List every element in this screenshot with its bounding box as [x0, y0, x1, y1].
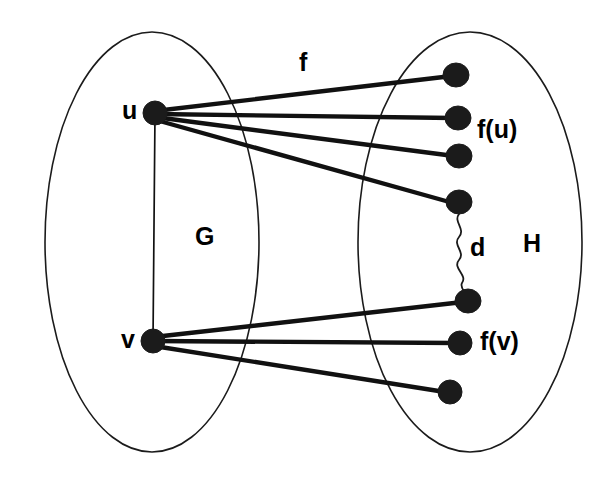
label-distance-d: d: [470, 235, 485, 260]
set-outline-g: [45, 32, 259, 452]
label-vertex-v: v: [121, 327, 135, 352]
edge-u-h3: [155, 117, 454, 156]
edge-u-h1: [155, 76, 452, 111]
label-set-g: G: [195, 224, 214, 249]
vertex-h5[interactable]: [455, 289, 481, 313]
edge-v-h7: [154, 346, 445, 392]
vertex-v[interactable]: [141, 329, 165, 353]
vertex-h7[interactable]: [438, 380, 462, 404]
vertex-u[interactable]: [143, 101, 167, 125]
vertex-h3[interactable]: [446, 144, 472, 168]
vertex-h2[interactable]: [445, 106, 471, 130]
edge-v-h5: [154, 302, 463, 337]
label-image-of-u: f(u): [477, 117, 517, 142]
label-vertex-u: u: [122, 98, 137, 123]
figure-canvas: u v G H f d f(u) f(v): [0, 0, 604, 486]
label-set-h: H: [523, 231, 541, 256]
edge-u-h4: [156, 120, 453, 203]
edge-u-h2: [155, 114, 453, 118]
vertex-h4[interactable]: [446, 190, 472, 214]
edge-u-v: [153, 113, 155, 341]
edge-v-h6: [154, 341, 455, 343]
label-image-of-v: f(v): [480, 329, 519, 354]
vertex-h1[interactable]: [443, 63, 469, 87]
edge-distance-d: [457, 214, 467, 298]
vertex-h6[interactable]: [448, 331, 472, 355]
label-mapping-f: f: [299, 50, 307, 75]
